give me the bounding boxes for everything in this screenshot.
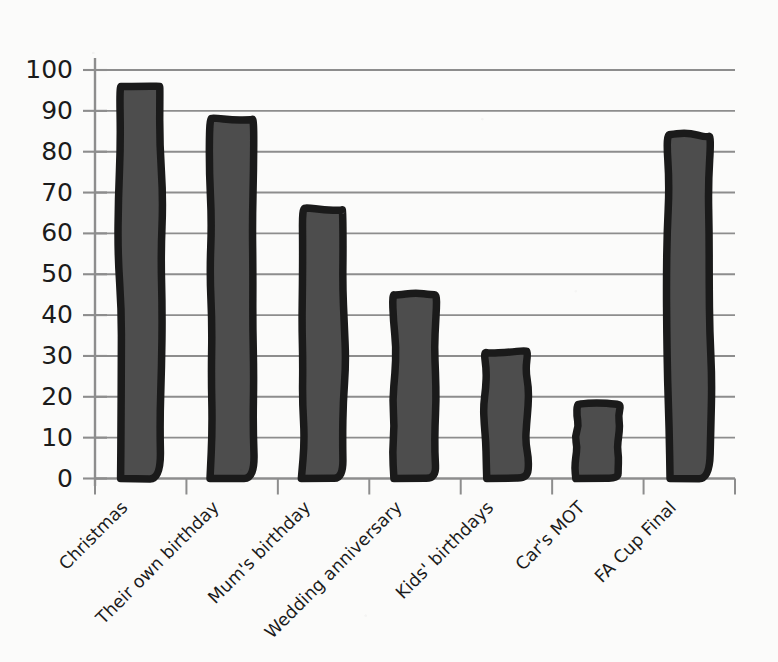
bar-series [118, 86, 712, 479]
bar-shape [484, 351, 529, 479]
bar-shape [301, 208, 345, 478]
x-tick-label: Car's MOT [511, 497, 588, 574]
bar [209, 118, 254, 478]
y-tick-label: 90 [41, 96, 73, 125]
y-tick-label: 100 [25, 55, 73, 84]
x-tick-label: Christmas [55, 497, 132, 574]
y-tick-label: 60 [41, 218, 73, 247]
x-tick-labels: ChristmasTheir own birthdayMum's birthda… [55, 497, 680, 642]
y-tick-label: 10 [41, 423, 73, 452]
y-tick-label: 0 [57, 464, 73, 493]
x-tick-label: Kids' birthdays [392, 497, 498, 603]
y-tick-labels: 0102030405060708090100 [25, 55, 73, 493]
y-tick-label: 20 [41, 382, 73, 411]
bar [484, 351, 529, 479]
bar [118, 86, 162, 479]
bar [575, 403, 620, 479]
bar [393, 293, 437, 478]
bar-chart: 0102030405060708090100 ChristmasTheir ow… [0, 0, 778, 662]
bar-shape [575, 403, 620, 479]
chart-page: 0102030405060708090100 ChristmasTheir ow… [0, 0, 778, 662]
y-tick-label: 80 [41, 137, 73, 166]
y-tick-label: 70 [41, 178, 73, 207]
bar [667, 133, 712, 478]
y-tick-label: 40 [41, 300, 73, 329]
x-tick-label: FA Cup Final [591, 497, 680, 586]
bar-shape [209, 118, 254, 478]
bar [301, 208, 345, 478]
y-tick-label: 30 [41, 341, 73, 370]
bar-shape [393, 293, 437, 478]
bar-shape [118, 86, 162, 479]
bar-shape [667, 133, 712, 478]
y-tick-label: 50 [41, 259, 73, 288]
